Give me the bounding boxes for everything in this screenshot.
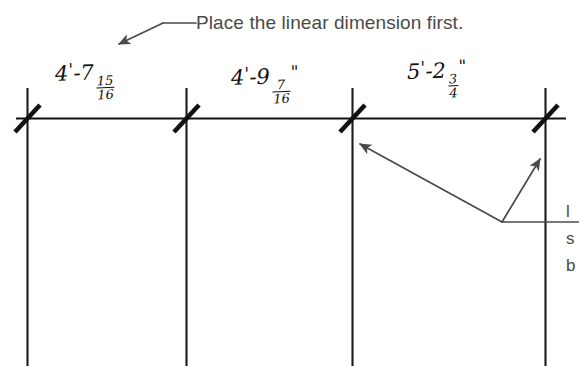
- dim-1-feet: 4: [54, 61, 69, 86]
- dim-3-fraction-denominator: 4: [448, 85, 459, 100]
- dim-2-inch-mark: ": [290, 61, 299, 81]
- extension-lines: [28, 88, 546, 366]
- main-callout-leader-arrow: [119, 23, 163, 44]
- dim-3-inch-mark: ": [458, 56, 467, 76]
- main-callout-leader: [119, 23, 196, 44]
- drawing-canvas: Place the linear dimension first. l s b …: [0, 0, 579, 366]
- dim-2-inches: 9: [256, 65, 271, 90]
- dim-3-feet: 5: [406, 59, 421, 84]
- dim-1-fraction: 1516: [95, 74, 115, 102]
- branch-arrow-to-extension-line-3: [360, 144, 502, 222]
- dim-1-inches: 7: [80, 61, 95, 86]
- dim-1-fraction-numerator: 15: [95, 74, 114, 88]
- dimension-value-segment-2: 4'-9716": [230, 61, 300, 107]
- side-note-label: l s b: [566, 198, 576, 279]
- technical-drawing-svg: [0, 0, 579, 366]
- dim-1-fraction-denominator: 16: [96, 87, 115, 102]
- dim-2-fraction-numerator: 7: [276, 78, 287, 92]
- dimension-value-segment-3: 5'-234": [406, 56, 467, 102]
- dim-3-fraction: 34: [447, 72, 458, 100]
- dim-2-fraction-denominator: 16: [272, 91, 291, 106]
- dimension-value-segment-1: 4'-71516: [54, 58, 116, 104]
- dim-3-inches: 2: [432, 59, 447, 84]
- dim-2-feet: 4: [230, 65, 245, 90]
- dim-2-fraction: 716: [271, 78, 291, 106]
- dim-3-fraction-numerator: 3: [447, 72, 458, 86]
- main-instruction-label: Place the linear dimension first.: [196, 12, 463, 34]
- branch-arrow-to-extension-line-4: [502, 159, 540, 222]
